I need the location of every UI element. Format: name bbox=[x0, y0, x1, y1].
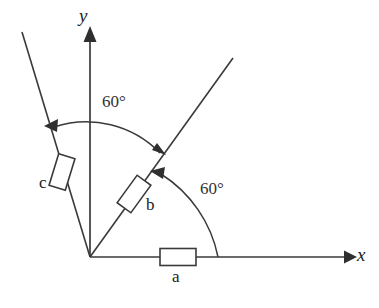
ray-b-line bbox=[90, 58, 233, 257]
angle-label-upper: 60° bbox=[102, 93, 126, 110]
component-label-c: c bbox=[39, 174, 47, 191]
component-c-rect bbox=[49, 154, 75, 191]
y-axis-label: y bbox=[79, 6, 87, 25]
x-axis-arrowhead bbox=[344, 251, 357, 264]
angle-arc-upper bbox=[54, 122, 160, 153]
angle-arc-upper-arrowhead-right bbox=[152, 143, 166, 155]
angle-arc-lower-arrowhead bbox=[150, 167, 165, 179]
y-axis-arrowhead bbox=[84, 26, 97, 42]
component-label-b: b bbox=[146, 196, 155, 213]
diagram-canvas: y x 60° 60° a b c bbox=[0, 0, 379, 308]
angle-label-lower: 60° bbox=[200, 180, 224, 197]
component-label-a: a bbox=[172, 268, 180, 285]
ray-c-line bbox=[22, 32, 90, 257]
x-axis-label: x bbox=[357, 245, 365, 264]
angle-diagram-svg bbox=[0, 0, 379, 308]
component-a-rect bbox=[160, 249, 196, 266]
